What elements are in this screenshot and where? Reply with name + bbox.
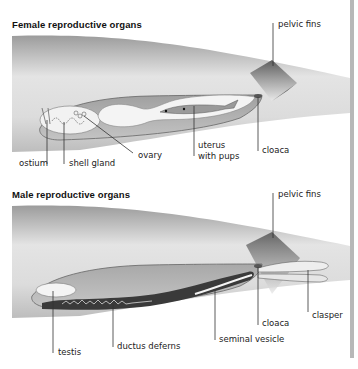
label-ovary: ovary [138, 150, 162, 161]
label-pelvic-fins-female: pelvic fins [278, 19, 321, 30]
label-cloaca-female: cloaca [262, 145, 289, 156]
label-pelvic-fins-male: pelvic fins [278, 189, 321, 200]
label-cloaca-male: cloaca [262, 318, 289, 329]
label-seminal-vesicle: seminal vesicle [219, 334, 284, 345]
label-ductus-deferens: ductus deferns [117, 341, 180, 352]
label-uterus-line2: with pups [198, 151, 239, 162]
label-shell-gland: shell gland [69, 158, 115, 169]
label-clasper: clasper [312, 310, 343, 321]
label-ostium: ostium [19, 158, 48, 169]
page-edge-bar [350, 0, 354, 358]
label-testis: testis [58, 347, 81, 358]
label-uterus-line1: uterus [198, 140, 225, 151]
